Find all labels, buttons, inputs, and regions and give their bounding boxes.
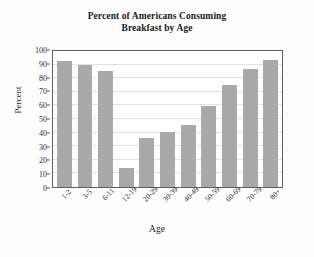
y-tick-mark — [47, 174, 50, 175]
x-tick-slot: 50-59 — [199, 189, 220, 223]
y-tick-label: 90 — [39, 59, 47, 68]
y-tick-mark — [47, 63, 50, 64]
x-tick-slot: 6-11 — [95, 189, 116, 223]
y-tick-mark — [47, 91, 50, 92]
y-tick-label: 100 — [35, 46, 47, 55]
x-tick-slot: 1-2 — [53, 189, 74, 223]
y-tick-mark — [47, 77, 50, 78]
bar-slot — [198, 51, 219, 187]
x-tick-slot: 80+ — [261, 189, 282, 223]
x-tick-label-3-5: 3-5 — [81, 187, 94, 200]
x-axis-ticks: 1-23-56-1112-1920-2930-3940-4950-5960-69… — [52, 189, 283, 223]
bar-20-29[interactable] — [139, 138, 154, 187]
x-tick-label-6-11: 6-11 — [100, 186, 116, 202]
x-tick-slot: 60-69 — [220, 189, 241, 223]
y-tick-mark — [47, 50, 50, 51]
x-tick-slot: 20-29 — [136, 189, 157, 223]
bar-slot — [116, 51, 137, 187]
y-axis-ticks: 0102030405060708090100 — [22, 50, 50, 188]
x-tick-slot: 3-5 — [74, 189, 95, 223]
x-tick-label-80+: 80+ — [267, 187, 282, 202]
y-tick-label: 80 — [39, 73, 47, 82]
bar-6-11[interactable] — [98, 71, 113, 187]
y-tick-label: 50 — [39, 115, 47, 124]
x-axis-label: Age — [0, 224, 314, 234]
y-tick-label: 70 — [39, 87, 47, 96]
chart-title: Percent of Americans Consuming Breakfast… — [0, 10, 314, 34]
x-tick-slot: 40-49 — [178, 189, 199, 223]
bar-3-5[interactable] — [78, 65, 93, 187]
bar-slot — [260, 51, 281, 187]
y-tick-mark — [47, 105, 50, 106]
bar-80+[interactable] — [263, 60, 278, 187]
y-tick-mark — [47, 132, 50, 133]
bar-chart-figure: Percent of Americans Consuming Breakfast… — [0, 0, 314, 257]
bar-slot — [219, 51, 240, 187]
bar-slot — [54, 51, 75, 187]
plot-area — [52, 50, 283, 188]
y-tick-label: 40 — [39, 128, 47, 137]
bar-series — [53, 51, 282, 187]
bar-slot — [178, 51, 199, 187]
bar-slot — [95, 51, 116, 187]
y-tick-mark — [47, 119, 50, 120]
chart-title-line-2: Breakfast by Age — [0, 22, 314, 34]
bar-slot — [157, 51, 178, 187]
bar-slot — [240, 51, 261, 187]
bar-50-59[interactable] — [201, 106, 216, 187]
x-tick-label-1-2: 1-2 — [60, 187, 73, 200]
y-tick-label: 30 — [39, 142, 47, 151]
x-tick-slot: 70-79 — [240, 189, 261, 223]
y-tick-label: 20 — [39, 156, 47, 165]
y-tick-mark — [47, 160, 50, 161]
bar-slot — [75, 51, 96, 187]
bar-1-2[interactable] — [57, 61, 72, 187]
bar-40-49[interactable] — [181, 125, 196, 187]
x-tick-slot: 12-19 — [115, 189, 136, 223]
bar-slot — [137, 51, 158, 187]
bar-30-39[interactable] — [160, 132, 175, 187]
bar-60-69[interactable] — [222, 85, 237, 187]
x-tick-slot: 30-39 — [157, 189, 178, 223]
y-tick-mark — [47, 146, 50, 147]
y-tick-mark — [47, 188, 50, 189]
bar-70-79[interactable] — [243, 69, 258, 187]
y-tick-label: 60 — [39, 101, 47, 110]
chart-title-line-1: Percent of Americans Consuming — [0, 10, 314, 22]
y-tick-label: 10 — [39, 170, 47, 179]
